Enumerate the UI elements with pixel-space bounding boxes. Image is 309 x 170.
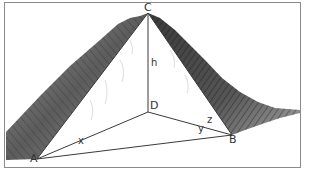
label-segment-x: x bbox=[78, 136, 84, 146]
label-point-D: D bbox=[150, 100, 158, 111]
label-segment-y: y bbox=[198, 124, 204, 134]
label-point-A: A bbox=[30, 153, 38, 164]
label-segment-h: h bbox=[151, 58, 157, 68]
right-mountain-slope bbox=[148, 13, 300, 135]
segment-CB bbox=[148, 13, 232, 135]
label-point-B: B bbox=[229, 134, 237, 145]
label-segment-z: z bbox=[207, 115, 212, 125]
left-mountain-slope bbox=[6, 13, 148, 160]
label-point-C: C bbox=[144, 2, 152, 13]
mountain-diagram bbox=[0, 0, 309, 170]
